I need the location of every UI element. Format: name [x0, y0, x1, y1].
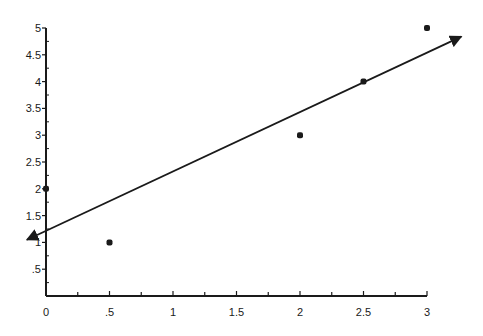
x-tick-label: .5 [105, 306, 114, 318]
data-point-marker [361, 79, 367, 85]
x-tick-label: 2.5 [356, 306, 371, 318]
data-point-marker [297, 132, 303, 138]
data-point-marker [43, 186, 49, 192]
y-tick-label: 4.5 [26, 49, 41, 61]
x-tick-label: 0 [43, 306, 49, 318]
y-tick-label: 2 [35, 183, 41, 195]
data-point-marker [107, 239, 113, 245]
x-tick-label: 1 [170, 306, 176, 318]
y-tick-label: 4 [35, 76, 41, 88]
data-point-marker [424, 25, 430, 31]
y-tick-label: .5 [32, 263, 41, 275]
y-tick-label: 1 [35, 236, 41, 248]
data-points [43, 25, 430, 245]
x-tick-label: 1.5 [229, 306, 244, 318]
fitted-line [27, 37, 461, 240]
y-tick-label: 3.5 [26, 102, 41, 114]
y-tick-label: 2.5 [26, 156, 41, 168]
y-tick-label: 1.5 [26, 210, 41, 222]
scatter-chart: 0.511.522.53 .511.522.533.544.55 [0, 0, 483, 336]
regression-line-arrow [27, 37, 461, 240]
y-tick-label: 3 [35, 129, 41, 141]
x-tick-label: 3 [424, 306, 430, 318]
axes [46, 28, 427, 296]
y-tick-label: 5 [35, 22, 41, 34]
x-tick-label: 2 [297, 306, 303, 318]
